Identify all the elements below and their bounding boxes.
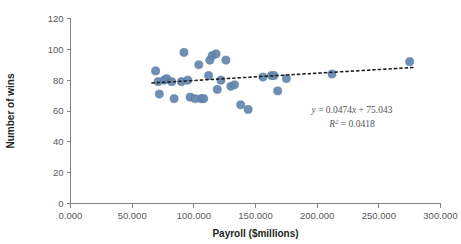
data-point <box>230 81 238 89</box>
data-point <box>237 101 245 109</box>
data-point <box>244 105 252 113</box>
y-axis-tick-label: 80 <box>53 75 64 86</box>
x-axis-tick-label: 250.000 <box>362 210 396 221</box>
x-axis-tick-label: 50.000 <box>118 210 147 221</box>
data-point <box>180 48 188 56</box>
data-point <box>222 56 230 64</box>
data-point <box>205 71 213 79</box>
data-point <box>328 70 336 78</box>
data-point <box>155 90 163 98</box>
y-axis-tick-label: 60 <box>53 105 64 116</box>
data-point <box>213 85 221 93</box>
y-axis-tick-label: 120 <box>48 13 64 24</box>
y-axis-tick-label: 20 <box>53 167 64 178</box>
data-point <box>195 61 203 69</box>
x-axis-tick-label: 150.000 <box>238 210 272 221</box>
x-axis-tick-label: 300.000 <box>423 210 457 221</box>
data-point <box>217 76 225 84</box>
data-point <box>200 95 208 103</box>
scatter-chart: 0204060801001200.00050.000100.000150.000… <box>0 0 461 244</box>
data-point <box>212 50 220 58</box>
data-point <box>406 58 414 66</box>
chart-labels-layer: 0204060801001200.00050.000100.000150.000… <box>5 13 458 239</box>
data-point <box>170 95 178 103</box>
x-axis-tick-label: 0.000 <box>59 210 83 221</box>
data-point <box>152 67 160 75</box>
chart-canvas: 0204060801001200.00050.000100.000150.000… <box>0 0 461 244</box>
trendline-equation: y = 0.0474x + 75.043 <box>311 105 393 115</box>
y-axis-tick-label: 40 <box>53 136 64 147</box>
y-axis-tick-label: 0 <box>58 198 63 209</box>
x-axis-tick-label: 100.000 <box>177 210 211 221</box>
data-point <box>274 87 282 95</box>
y-axis-title: Number of wins <box>5 73 16 148</box>
x-axis-tick-label: 200.000 <box>300 210 334 221</box>
y-axis-tick-label: 100 <box>48 44 64 55</box>
r-squared-label: R2 = 0.0418 <box>328 118 375 129</box>
x-axis-title: Payroll ($millions) <box>212 228 298 239</box>
